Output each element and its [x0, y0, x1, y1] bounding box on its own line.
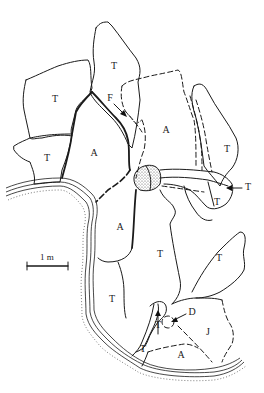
region-a-center: [98, 190, 136, 318]
label-t-right-tall: T: [224, 143, 230, 154]
label-t-right-lower: T: [216, 252, 222, 263]
stippled-feature: [134, 165, 161, 191]
region-a-upper-right: [121, 70, 196, 178]
label-d: D: [188, 306, 195, 317]
region-t-inner-small: [132, 302, 174, 357]
label-f: F: [107, 92, 113, 103]
scale-bar-label: 1 m: [40, 252, 54, 262]
label-t-lower-left: T: [109, 293, 115, 304]
label-t-left-upper: T: [52, 93, 58, 104]
label-t-center: T: [157, 248, 163, 259]
label-t-inner-small: T: [155, 319, 161, 330]
site-plan-diagram: 1 m T F T A T A T T T A T T T T D J T A: [0, 0, 264, 393]
region-t-right-lower: [192, 232, 245, 298]
label-t-right-arrow: T: [245, 181, 251, 192]
label-a-upper-right: A: [162, 124, 170, 135]
scale-bar: 1 m: [27, 252, 68, 270]
label-t-left-lower: T: [44, 152, 50, 163]
label-t-right-small: T: [214, 196, 220, 207]
label-a-bottom: A: [177, 349, 185, 360]
label-t-bottom: T: [140, 343, 146, 354]
arrow-d: [171, 314, 186, 322]
label-j: J: [206, 326, 210, 337]
label-t-top: T: [111, 60, 117, 71]
label-a-center: A: [116, 221, 124, 232]
region-t-right-cluster: [160, 169, 233, 220]
label-a-left-mid: A: [90, 147, 98, 158]
region-a-bottom: [142, 344, 198, 366]
region-t-center: [160, 190, 181, 304]
region-t-top: [90, 22, 140, 148]
